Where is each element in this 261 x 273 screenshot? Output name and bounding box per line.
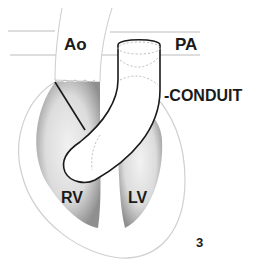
- label-aorta: Ao: [64, 36, 87, 53]
- label-left-ventricle: LV: [128, 190, 147, 206]
- diagram-graphic: [0, 0, 261, 273]
- heart-conduit-diagram: Ao PA -CONDUIT RV LV 3: [0, 0, 261, 273]
- figure-number: 3: [196, 236, 203, 249]
- label-pulmonary-artery: PA: [175, 36, 197, 53]
- label-right-ventricle: RV: [61, 190, 83, 206]
- label-conduit: -CONDUIT: [164, 88, 242, 104]
